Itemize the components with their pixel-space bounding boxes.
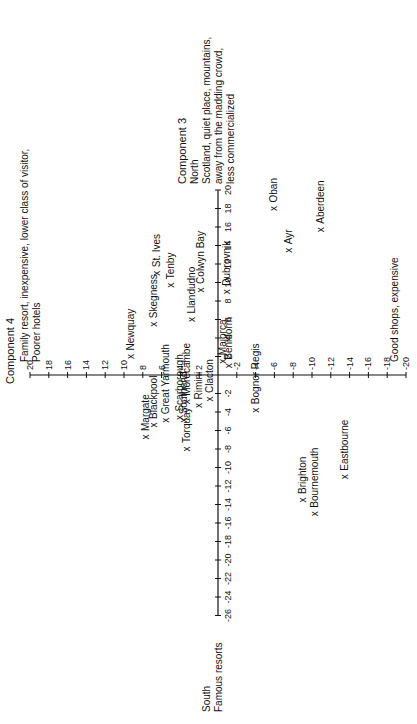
point-label: Eastbourne <box>339 419 350 471</box>
point-label: Brighton <box>297 457 308 494</box>
point-marker-icon: x <box>309 511 320 516</box>
x-tick-label: 18 <box>223 203 233 213</box>
data-point: xEastbourne <box>339 419 350 479</box>
x-tick-label: -20 <box>223 553 233 566</box>
data-point: xTenby <box>165 253 176 288</box>
y-tick-label: -6 <box>269 362 279 370</box>
x-tick-label: -8 <box>223 445 233 453</box>
x-tick-label: -18 <box>223 535 233 548</box>
x-tick-label: -14 <box>223 498 233 511</box>
point-label: Newquay <box>125 309 136 351</box>
component-4-negative-label: Good shops, expensive <box>389 257 400 362</box>
data-point: xRimini <box>193 372 204 408</box>
point-marker-icon: x <box>223 363 234 368</box>
component-3-positive-label: Scotland, quiet place, mountains, <box>201 37 212 184</box>
component-3-north: North <box>189 160 200 184</box>
point-marker-icon: x <box>250 408 261 413</box>
component-3-positive-label-3: less commercialized <box>225 94 236 184</box>
point-marker-icon: x <box>339 474 350 479</box>
rotated-chart: -26-24-22-20-18-16-14-12-10-8-6-4-224681… <box>0 0 417 724</box>
component-3-positive-label-2: away from the madding crowd, <box>213 48 224 184</box>
data-point: xNewquay <box>125 309 136 359</box>
point-marker-icon: x <box>186 317 197 322</box>
x-tick-label: -2 <box>223 389 233 397</box>
component-3-negative-label: Famous resorts <box>213 643 224 712</box>
point-marker-icon: x <box>195 287 206 292</box>
data-point: xLlandudno <box>186 266 197 322</box>
point-label: Torquay <box>181 407 192 443</box>
point-marker-icon: x <box>148 322 159 327</box>
y-tick-label: -8 <box>288 362 298 370</box>
point-marker-icon: x <box>315 227 326 232</box>
data-point: xAyr <box>283 229 294 253</box>
point-marker-icon: x <box>125 354 136 359</box>
point-label: Tenby <box>165 253 176 280</box>
y-tick-label: -12 <box>326 357 336 370</box>
data-point: xSkegness <box>148 274 159 326</box>
component-4-positive-label: Family resort, inexpensive, lower class … <box>19 149 30 362</box>
data-point: xOban <box>268 178 279 211</box>
x-tick-label: 16 <box>223 222 233 232</box>
point-marker-icon: x <box>221 289 232 294</box>
data-point: xBognor Regis <box>250 344 261 413</box>
data-point: xAberdeen <box>315 180 326 232</box>
x-tick-label: -26 <box>223 609 233 622</box>
point-marker-icon: x <box>140 434 151 439</box>
point-marker-icon: x <box>204 397 215 402</box>
y-tick-label: 14 <box>81 360 91 370</box>
data-point: xTorquay <box>181 407 192 451</box>
data-point: xBrighton <box>297 457 308 503</box>
x-tick-label: -22 <box>223 572 233 585</box>
point-marker-icon: x <box>193 403 204 408</box>
point-marker-icon: x <box>181 447 192 452</box>
y-tick-label: 12 <box>100 360 110 370</box>
x-tick-label: -24 <box>223 590 233 603</box>
y-tick-label: -14 <box>345 357 355 370</box>
point-marker-icon: x <box>297 497 308 502</box>
point-label: Rimini <box>193 372 204 400</box>
y-tick-label: 16 <box>63 360 73 370</box>
y-tick-label: 10 <box>119 360 129 370</box>
data-points: xObanxAberdeenxAyrxDubrovnikxColwyn Bayx… <box>125 178 350 516</box>
scatter-plot: -26-24-22-20-18-16-14-12-10-8-6-4-224681… <box>0 0 417 724</box>
point-label: Dubrovnik <box>221 240 232 286</box>
data-point: xClacton <box>204 359 215 401</box>
data-point: xSt. Ives <box>151 234 162 276</box>
point-label: Clacton <box>204 359 215 393</box>
component-3-title: Component 3 <box>176 118 188 184</box>
point-marker-icon: x <box>165 283 176 288</box>
x-tick-label: -12 <box>223 479 233 492</box>
point-label: St. Ives <box>151 234 162 267</box>
y-tick-label: -10 <box>307 357 317 370</box>
data-point: xMargate <box>140 394 151 440</box>
x-tick-label: 20 <box>223 185 233 195</box>
y-tick-label: 18 <box>44 360 54 370</box>
data-point: xGreat Yarmouth <box>160 344 171 423</box>
point-marker-icon: x <box>160 418 171 423</box>
point-label: Margate <box>140 394 151 431</box>
y-tick-label: -16 <box>363 357 373 370</box>
axes <box>30 190 406 616</box>
component-4-title: Component 4 <box>4 318 16 384</box>
point-label: Great Yarmouth <box>160 344 171 414</box>
x-tick-label: -16 <box>223 516 233 529</box>
point-label: Skegness <box>148 274 159 318</box>
point-label: Aberdeen <box>315 180 326 223</box>
point-label: Bournemouth <box>309 448 320 508</box>
x-tick-label: -10 <box>223 461 233 474</box>
point-marker-icon: x <box>283 248 294 253</box>
component-4-positive-label-2: Poorer hotels <box>31 303 42 362</box>
x-tick-label: -4 <box>223 408 233 416</box>
point-label: Oban <box>268 178 279 202</box>
point-label: Llandudno <box>186 266 197 313</box>
x-tick-label: -6 <box>223 426 233 434</box>
point-label: Colwyn Bay <box>195 231 206 284</box>
point-label: Bognor Regis <box>250 344 261 405</box>
point-marker-icon: x <box>268 206 279 211</box>
x-tick-label: 8 <box>223 298 233 303</box>
y-tick-label: 8 <box>138 365 148 370</box>
point-label: Benidorm <box>223 317 234 360</box>
data-point: xBournemouth <box>309 448 320 517</box>
component-3-south: South <box>201 686 212 712</box>
data-point: xColwyn Bay <box>195 231 206 292</box>
